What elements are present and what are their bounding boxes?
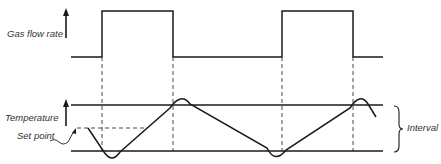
control-diagram [0,0,441,164]
interval-label: Interval [407,122,438,133]
gas-flow-square-wave [71,11,383,57]
gas-flow-arrow-icon [63,8,69,38]
temperature-arrow-icon [63,99,69,126]
temperature-curve [88,99,376,158]
interval-brace-icon [394,106,403,152]
temperature-label: Temperature [5,112,59,123]
transition-guides [102,57,353,151]
gas-flow-rate-label: Gas flow rate [7,28,63,39]
set-point-label: Set point [17,130,55,141]
